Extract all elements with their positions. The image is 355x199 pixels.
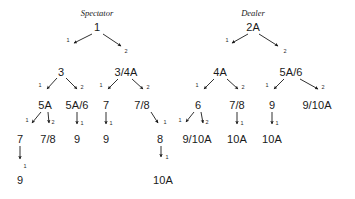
tree-node-s11: 8 — [157, 134, 163, 145]
edge-arrow-s3-to-s7 — [32, 112, 41, 123]
edge-arrow-s1-to-s4 — [66, 78, 77, 89]
tree-node-s8: 7/8 — [40, 134, 56, 145]
edge-label-s6-to-s11: 1 — [163, 120, 166, 126]
edge-arrow-d1-to-d3 — [204, 79, 214, 89]
edge-label-s5-to-s10: 1 — [109, 121, 112, 127]
edge-label-s3-to-s8: 2 — [51, 120, 54, 126]
edge-label-s2-to-s6: 2 — [146, 85, 149, 91]
tree-node-d1: 4A — [213, 67, 227, 78]
edge-arrow-s6-to-s11 — [151, 112, 158, 123]
tree-title-spectator-tree: Spectator — [81, 9, 114, 18]
edge-arrow-d2-to-d6 — [300, 79, 318, 89]
tree-node-s13: 10A — [153, 175, 173, 186]
tree-node-d7: 9/10A — [182, 134, 211, 145]
edge-arrow-d2-to-d5 — [274, 79, 284, 89]
edge-label-s1-to-s3: 1 — [38, 83, 41, 89]
edge-arrow-d3-to-d7 — [186, 112, 194, 122]
tree-node-d2: 5A/6 — [279, 67, 302, 78]
edge-arrow-s2-to-s6 — [132, 79, 143, 89]
tree-node-d3: 6 — [195, 100, 201, 111]
edge-label-s7-to-s12: 1 — [23, 164, 26, 170]
edge-arrow-s1-to-s3 — [47, 78, 57, 89]
edge-label-d2-to-d5: 1 — [265, 83, 268, 89]
tree-node-d0: 2A — [246, 22, 260, 33]
edge-arrow-s0-to-s1 — [74, 34, 92, 43]
edge-label-s0-to-s1: 1 — [66, 38, 69, 44]
edge-arrow-s2-to-s5 — [108, 79, 118, 89]
edge-arrow-s0-to-s2 — [103, 34, 121, 46]
edge-label-d2-to-d6: 2 — [321, 85, 324, 91]
edge-arrow-d1-to-d4 — [227, 79, 238, 89]
edge-arrow-d0-to-d1 — [232, 34, 248, 43]
tree-node-s5: 7 — [103, 100, 109, 111]
edge-label-s3-to-s7: 1 — [25, 118, 28, 124]
tree-node-s0: 1 — [94, 22, 100, 33]
tree-node-d6: 9/10A — [302, 100, 331, 111]
edge-label-d1-to-d4: 2 — [241, 85, 244, 91]
edge-label-d0-to-d1: 1 — [225, 38, 228, 44]
edge-label-d5-to-d9: 1 — [275, 121, 278, 127]
edge-label-d0-to-d2: 2 — [283, 49, 286, 55]
tree-node-s9: 9 — [74, 134, 80, 145]
edge-label-s11-to-s13: 1 — [165, 155, 168, 161]
edge-label-d3-to-d7b: 2 — [205, 120, 208, 126]
tree-node-s10: 9 — [103, 134, 109, 145]
tree-node-s6: 7/8 — [134, 100, 150, 111]
edge-label-s0-to-s2: 2 — [124, 49, 127, 55]
edge-label-s4-to-s9: 1 — [80, 121, 83, 127]
tree-node-d8: 10A — [227, 134, 247, 145]
edge-label-d1-to-d3: 1 — [195, 83, 198, 89]
tree-node-d9: 10A — [262, 134, 282, 145]
tree-node-s7: 7 — [17, 134, 23, 145]
tree-node-d5: 9 — [269, 100, 275, 111]
edge-arrow-s3-to-s8 — [48, 112, 49, 123]
tree-node-s2: 3/4A — [114, 67, 137, 78]
tree-node-s3: 5A — [38, 100, 52, 111]
tree-node-d4: 7/8 — [229, 100, 245, 111]
edge-label-d3-to-d7: 1 — [178, 118, 181, 124]
tree-node-s12: 9 — [17, 175, 23, 186]
tree-title-dealer-tree: Dealer — [241, 9, 265, 18]
decision-tree-figure: SpectatorDealer 133/4A5A5A/677/877/89989… — [0, 0, 355, 199]
edge-arrow-d0-to-d2 — [259, 34, 278, 46]
tree-node-s1: 3 — [58, 67, 64, 78]
edge-arrow-d3-to-d7b — [201, 112, 203, 123]
edge-label-s1-to-s4: 2 — [80, 85, 83, 91]
edge-label-d4-to-d8: 1 — [240, 121, 243, 127]
edge-label-s2-to-s5: 1 — [99, 83, 102, 89]
tree-node-s4: 5A/6 — [65, 100, 88, 111]
